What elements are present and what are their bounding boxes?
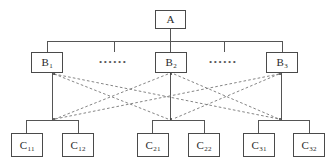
node-b3[interactable]: B3 — [266, 52, 298, 73]
diagram-canvas: A B1 B2 B3 C11 C12 C21 C22 C31 C32 •••••… — [0, 0, 332, 164]
node-b2-label: B2 — [165, 57, 176, 68]
node-c31-label: C31 — [252, 140, 267, 151]
node-c11[interactable]: C11 — [11, 133, 43, 157]
node-c22-label: C22 — [197, 140, 212, 151]
node-a-label: A — [166, 14, 174, 25]
node-c31[interactable]: C31 — [243, 133, 275, 157]
node-c12[interactable]: C12 — [62, 133, 94, 157]
dashed-b2-to-group1 — [55, 74, 168, 119]
node-b3-label: B3 — [276, 57, 287, 68]
node-c12-label: C12 — [71, 140, 86, 151]
node-c32-label: C32 — [302, 140, 317, 151]
node-c21[interactable]: C21 — [137, 133, 169, 157]
ellipsis-right: •••••• — [209, 58, 238, 67]
node-c32[interactable]: C32 — [293, 133, 325, 157]
ellipsis-left: •••••• — [99, 58, 128, 67]
node-c22[interactable]: C22 — [188, 133, 220, 157]
node-c11-label: C11 — [20, 140, 35, 151]
node-b1-label: B1 — [41, 57, 52, 68]
node-b1[interactable]: B1 — [31, 52, 63, 73]
dashed-b1-to-group2 — [54, 74, 168, 119]
node-a[interactable]: A — [155, 10, 186, 29]
node-b2[interactable]: B2 — [155, 52, 187, 73]
node-c21-label: C21 — [146, 140, 161, 151]
